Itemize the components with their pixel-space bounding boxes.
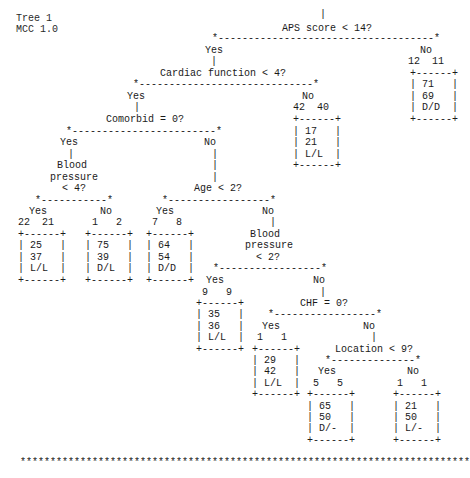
branch-label-no: No [262, 206, 274, 217]
split-question: CHF = 0? [300, 298, 348, 309]
leaf-box-border: +------+ [393, 435, 441, 446]
branch-line: | [211, 56, 217, 67]
split-question: < 4? [62, 183, 86, 194]
branch-label-no: No [302, 91, 314, 102]
leaf-box-value: | L/L | [18, 263, 66, 274]
branch-line: | [320, 287, 326, 298]
leaf-box-border: +------+ [293, 160, 341, 171]
branch-label-no: No [407, 366, 419, 377]
split-question: < 2? [256, 252, 280, 263]
leaf-box-value: | D/L | [85, 263, 133, 274]
branch-connector: *-----------------------------* [133, 79, 319, 90]
branch-label-yes: Yes [29, 206, 47, 217]
split-question: pressure [245, 240, 293, 251]
leaf-counts: 5 5 [313, 378, 343, 389]
leaf-box-border: +------+ [196, 298, 244, 309]
branch-label-yes: Yes [127, 91, 145, 102]
leaf-box-border: +------+ [307, 389, 355, 400]
branch-label-no: No [420, 45, 432, 56]
split-question: Age < 2? [194, 183, 242, 194]
branch-connector: *-----------* [35, 195, 113, 206]
leaf-counts: 42 40 [293, 102, 329, 113]
leaf-box-value: | 35 | [196, 309, 244, 320]
branch-label-yes: Yes [318, 366, 336, 377]
leaf-counts: 1 1 [257, 332, 287, 343]
split-question: Blood [57, 160, 87, 171]
branch-label-yes: Yes [60, 137, 78, 148]
leaf-box-value: | 64 | [146, 240, 194, 251]
branch-label-yes: Yes [156, 206, 174, 217]
leaf-box-value: | 65 | [307, 401, 355, 412]
leaf-counts: 22 21 [18, 217, 54, 228]
leaf-box-value: | 25 | [18, 240, 66, 251]
leaf-box-value: | L/- | [393, 423, 441, 434]
leaf-counts: 12 11 [408, 56, 444, 67]
branch-label-yes: Yes [262, 321, 280, 332]
leaf-box-value: | 29 | [252, 355, 300, 366]
branch-connector: *-----------------* [162, 195, 276, 206]
branch-label-no: No [363, 321, 375, 332]
leaf-box-value: | D/D | [146, 263, 194, 274]
split-question: Cardiac function < 4? [160, 68, 286, 79]
leaf-box-value: | L/L | [252, 378, 300, 389]
branch-connector: *--------------* [325, 355, 421, 366]
leaf-box-border: +------+ [252, 389, 300, 400]
leaf-box-value: | 42 | [252, 366, 300, 377]
branch-line: | [212, 172, 218, 183]
branch-label-yes: Yes [206, 275, 224, 286]
branch-label-no: No [313, 275, 325, 286]
leaf-box-value: | L/L | [293, 149, 341, 160]
leaf-box-value: | 50 | [393, 412, 441, 423]
leaf-box-value: | 75 | [85, 240, 133, 251]
leaf-box-border: +------+ [410, 68, 458, 79]
leaf-box-border: +------+ [146, 229, 194, 240]
branch-label-yes: Yes [205, 45, 223, 56]
branch-line: | [68, 149, 74, 160]
leaf-counts: 9 9 [202, 287, 232, 298]
leaf-box-border: +------+ [410, 114, 458, 125]
leaf-box-value: | 54 | [146, 252, 194, 263]
tree-title: Tree 1 [16, 13, 52, 24]
leaf-box-value: | 39 | [85, 252, 133, 263]
leaf-box-border: +------+ [307, 435, 355, 446]
leaf-box-value: | 21 | [393, 401, 441, 412]
branch-connector: *-----------------* [213, 263, 327, 274]
branch-connector: *------------------------* [66, 126, 222, 137]
leaf-box-border: +------+ [18, 275, 66, 286]
branch-line: | [134, 102, 140, 113]
leaf-box-border: +------+ [196, 344, 244, 355]
leaf-box-value: | 36 | [196, 321, 244, 332]
branch-line: | [270, 217, 276, 228]
leaf-box-value: | 69 | [410, 91, 458, 102]
branch-line: | [212, 160, 218, 171]
leaf-box-value: | 37 | [18, 252, 66, 263]
leaf-box-border: +------+ [146, 275, 194, 286]
branch-connector: *-----------------* [268, 309, 382, 320]
branch-line: | [320, 9, 326, 20]
split-question: Blood [250, 229, 280, 240]
branch-line: | [212, 149, 218, 160]
leaf-box-value: | D/D | [410, 102, 458, 113]
branch-label-no: No [100, 206, 112, 217]
branch-line: | [371, 332, 377, 343]
leaf-box-border: +------+ [18, 229, 66, 240]
split-question: pressure [50, 172, 98, 183]
split-question: Comorbid = 0? [106, 114, 184, 125]
leaf-box-value: | 21 | [293, 137, 341, 148]
leaf-counts: 1 2 [92, 217, 122, 228]
leaf-box-border: +------+ [252, 344, 300, 355]
branch-connector: *------------------------------------* [212, 33, 440, 44]
branch-label-no: No [204, 137, 216, 148]
leaf-box-value: | 17 | [293, 126, 341, 137]
leaf-box-border: +------+ [393, 389, 441, 400]
separator-line: ****************************************… [20, 457, 470, 468]
tree-subtitle: MCC 1.0 [16, 24, 58, 35]
leaf-box-value: | L/L | [196, 332, 244, 343]
leaf-box-value: | 50 | [307, 412, 355, 423]
leaf-box-value: | D/- | [307, 423, 355, 434]
leaf-counts: 1 1 [397, 378, 427, 389]
leaf-counts: 7 8 [152, 217, 182, 228]
leaf-box-value: | 71 | [410, 79, 458, 90]
leaf-box-border: +------+ [85, 229, 133, 240]
leaf-box-border: +------+ [85, 275, 133, 286]
